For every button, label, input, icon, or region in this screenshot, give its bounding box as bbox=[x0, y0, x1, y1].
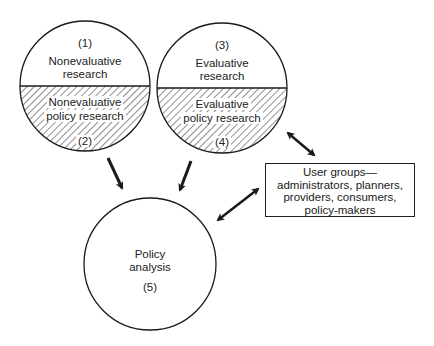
user-groups-line3: providers, consumers, bbox=[266, 191, 414, 204]
circle-1-number: (1) bbox=[45, 37, 125, 50]
user-groups-line4: policy-makers bbox=[266, 204, 414, 217]
circle-4-label-line2: policy research bbox=[181, 112, 262, 124]
circle-3-label-line1: Evaluative bbox=[172, 57, 272, 70]
circle-3-label-line2: research bbox=[172, 70, 272, 83]
circle-1-label-line1: Nonevaluative bbox=[35, 55, 135, 68]
circle-5-label-line2: analysis bbox=[110, 261, 190, 274]
arrow-4-users-bidirectional bbox=[288, 133, 314, 155]
user-groups-line2: administrators, planners, bbox=[266, 179, 414, 192]
arrow-2-to-5 bbox=[108, 158, 122, 188]
circle-2-number: (2) bbox=[76, 135, 94, 147]
circle-5-number: (5) bbox=[110, 281, 190, 294]
circle-2-label-line1: Nonevaluative bbox=[47, 96, 124, 108]
circle-3-number: (3) bbox=[182, 39, 262, 52]
arrow-4-to-5 bbox=[180, 161, 191, 190]
circle-1-label-line2: research bbox=[35, 68, 135, 81]
circle-5-label-line1: Policy bbox=[110, 248, 190, 261]
circle-4-number: (4) bbox=[213, 136, 231, 148]
circle-4-label-line1: Evaluative bbox=[193, 98, 250, 110]
arrow-5-users-bidirectional bbox=[218, 189, 258, 220]
user-groups-line1: User groups— bbox=[266, 166, 414, 179]
user-groups-box: User groups— administrators, planners, p… bbox=[265, 163, 415, 217]
circle-2-label-line2: policy research bbox=[44, 110, 125, 122]
